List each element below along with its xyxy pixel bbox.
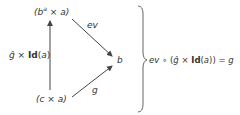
- node-right: b: [117, 56, 123, 65]
- equation: ev ∘ (ĝ × Id(a)) = g: [149, 56, 234, 65]
- edge-label-g: g: [92, 86, 98, 95]
- edge-label-vertical: ĝ × Id(a): [9, 51, 50, 60]
- edge-label-ev: ev: [87, 21, 98, 30]
- node-top: (ba × a): [34, 6, 69, 17]
- node-bottom: (c × a): [36, 95, 67, 104]
- right-brace: [138, 6, 147, 112]
